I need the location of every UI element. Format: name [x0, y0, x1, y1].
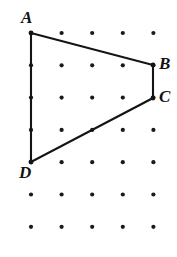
grid-dot	[151, 31, 155, 35]
grid-dot	[60, 63, 64, 67]
grid-dot	[90, 96, 94, 100]
grid-dot	[60, 160, 64, 164]
grid-dot	[121, 31, 125, 35]
grid-dot	[151, 225, 155, 229]
vertex-dot-b	[151, 63, 156, 68]
grid-dot	[121, 96, 125, 100]
geometry-canvas	[0, 0, 177, 257]
grid-dot	[60, 192, 64, 196]
grid-dot	[90, 31, 94, 35]
vertex-label-b: B	[159, 55, 170, 72]
grid-dot	[60, 128, 64, 132]
vertex-dot-a	[29, 31, 34, 36]
vertex-label-d: D	[19, 164, 31, 181]
grid-dot	[151, 192, 155, 196]
grid-dot	[60, 225, 64, 229]
grid-dot	[121, 225, 125, 229]
vertex-label-a: A	[21, 9, 32, 26]
grid-dot	[121, 192, 125, 196]
grid-dot	[60, 96, 64, 100]
vertex-label-c: C	[159, 88, 170, 105]
grid-dot	[60, 31, 64, 35]
grid-dot	[29, 192, 33, 196]
grid-dot	[121, 128, 125, 132]
grid-dot	[90, 160, 94, 164]
grid-dot	[121, 63, 125, 67]
grid-dot	[151, 128, 155, 132]
grid-dot	[90, 225, 94, 229]
grid-dot	[90, 63, 94, 67]
grid-dot	[151, 160, 155, 164]
grid-dot	[29, 225, 33, 229]
grid-dot	[90, 192, 94, 196]
vertex-dot-c	[151, 96, 156, 101]
grid-dot	[121, 160, 125, 164]
dot-grid-figure: A B C D	[0, 0, 177, 257]
